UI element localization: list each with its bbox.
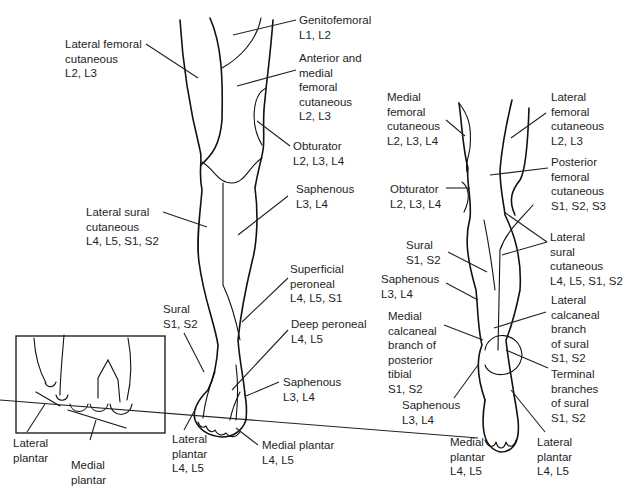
- label-post-medial-plantar: Medial plantarL4, L5: [450, 435, 485, 479]
- dermatome-nerve-diagram: GenitofemoralL1, L2 Lateral femoral cuta…: [0, 0, 643, 492]
- label-post-saphenous-leg: SaphenousL3, L4: [381, 272, 439, 301]
- label-post-medial-femoral-cutaneous: Medial femoral cutaneousL2, L3, L4: [387, 90, 440, 148]
- label-post-lateral-plantar: Lateral plantarL4, L5: [537, 435, 572, 479]
- label-post-medial-calcaneal: Medial calcaneal branch of posterior tib…: [388, 309, 437, 396]
- label-deep-peroneal: Deep peronealL4, L5: [291, 317, 366, 346]
- posterior-leg-outline: [459, 100, 533, 452]
- label-lateral-plantar: Lateral plantarL4, L5: [172, 432, 207, 476]
- label-medial-plantar: Medial plantarL4, L5: [262, 438, 334, 467]
- label-genitofemoral: GenitofemoralL1, L2: [299, 13, 371, 42]
- label-lateral-sural-cutaneous: Lateral sural cutaneousL4, L5, S1, S2: [86, 205, 159, 249]
- anterior-leader-lines: [146, 20, 296, 445]
- label-post-obturator: ObturatorL2, L3, L4: [390, 182, 441, 211]
- label-post-lateral-calcaneal: Lateral calcaneal branch of suralS1, S2: [551, 293, 600, 366]
- label-post-sural: SuralS1, S2: [406, 238, 441, 267]
- label-sural: SuralS1, S2: [163, 302, 198, 331]
- label-post-lateral-sural-cutaneous: Lateral sural cutaneousL4, L5, S1, S2: [550, 230, 623, 288]
- label-post-posterior-femoral-cutaneous: Posterior femoral cutaneousS1, S2, S3: [551, 155, 606, 213]
- label-post-lateral-femoral-cutaneous: Lateral femoral cutaneousL2, L3: [551, 90, 604, 148]
- inset-toes: [16, 335, 165, 440]
- label-lateral-femoral-cutaneous: Lateral femoral cutaneousL2, L3: [65, 37, 142, 81]
- label-superficial-peroneal: Superficial peronealL4, L5, S1: [290, 262, 344, 306]
- label-post-saphenous-foot: SaphenousL3, L4: [402, 398, 460, 427]
- label-post-terminal-sural: Terminal branches of suralS1, S2: [551, 367, 598, 425]
- label-inset-lateral-plantar: Lateral plantar: [13, 436, 48, 465]
- label-anterior-medial-femoral-cutaneous: Anterior and medial femoral cutaneousL2,…: [299, 51, 362, 124]
- label-obturator: ObturatorL2, L3, L4: [293, 139, 344, 168]
- anterior-leg-outline: [180, 18, 273, 437]
- label-inset-medial-plantar: Medial plantar: [71, 458, 106, 487]
- label-saphenous-leg: SaphenousL3, L4: [296, 182, 354, 211]
- label-saphenous-foot: SaphenousL3, L4: [283, 375, 341, 404]
